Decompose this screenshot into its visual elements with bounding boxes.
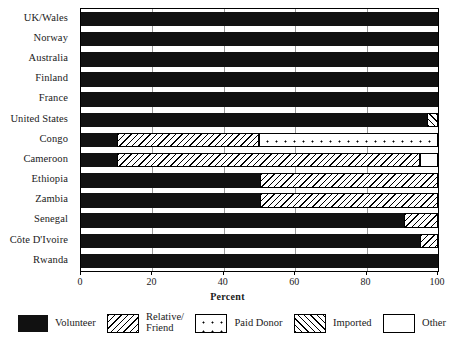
tick-label-20: 20	[146, 276, 156, 287]
stacked-bar-2	[81, 52, 438, 67]
legend-item-imported: Imported	[294, 314, 372, 333]
bar-segment-relative	[420, 234, 438, 249]
bar-segment-volunteer	[81, 133, 117, 148]
legend-swatch-relative-icon	[107, 314, 139, 333]
legend-swatch-other-icon	[383, 314, 415, 333]
bar-row	[81, 190, 438, 210]
legend-item-volunteer: Volunteer	[18, 315, 96, 332]
bar-segment-relative	[117, 153, 420, 168]
bar-row	[81, 231, 438, 251]
y-axis-label-6: Congo	[0, 129, 74, 149]
bar-segment-volunteer	[81, 32, 438, 47]
bar-segment-relative	[260, 193, 439, 208]
stacked-bar-8	[81, 173, 438, 188]
plot-area	[80, 8, 439, 272]
y-axis-category-labels: UK/WalesNorwayAustraliaFinlandFranceUnit…	[0, 8, 74, 270]
stacked-bar-12	[81, 254, 438, 269]
stacked-bar-3	[81, 72, 438, 87]
y-axis-label-0: UK/Wales	[0, 8, 74, 28]
x-axis-tick-labels: 020406080100	[0, 276, 455, 290]
tick-label-60: 60	[289, 276, 299, 287]
bar-row	[81, 110, 438, 130]
bar-row	[81, 251, 438, 271]
legend-item-paid: Paid Donor	[195, 314, 282, 333]
bar-row	[81, 29, 438, 49]
bar-segment-paid	[259, 133, 438, 148]
bar-row	[81, 170, 438, 190]
bar-segment-volunteer	[81, 72, 438, 87]
bar-row	[81, 69, 438, 89]
bar-segment-other	[420, 153, 438, 168]
stacked-bar-0	[81, 12, 438, 27]
y-axis-label-7: Cameroon	[0, 149, 74, 169]
legend-swatch-volunteer-icon	[18, 315, 48, 332]
y-axis-label-2: Australia	[0, 48, 74, 68]
bar-segment-volunteer	[81, 113, 427, 128]
legend-label-paid: Paid Donor	[234, 318, 282, 329]
y-axis-label-11: Côte D'Ivoire	[0, 230, 74, 250]
legend-item-other: Other	[383, 314, 446, 333]
stacked-bar-7	[81, 153, 438, 168]
tick-100	[437, 271, 438, 275]
bar-row	[81, 90, 438, 110]
tick-0	[80, 271, 81, 275]
legend-label-volunteer: Volunteer	[55, 318, 96, 329]
y-axis-label-8: Ethiopia	[0, 169, 74, 189]
tick-80	[366, 271, 367, 275]
legend-label-imported: Imported	[333, 318, 372, 329]
stacked-bar-6	[81, 133, 438, 148]
stacked-bar-9	[81, 193, 438, 208]
bar-segment-relative	[404, 213, 438, 228]
tick-label-40: 40	[218, 276, 228, 287]
stacked-bar-10	[81, 213, 438, 228]
bar-row	[81, 150, 438, 170]
stacked-bar-1	[81, 32, 438, 47]
bar-segment-volunteer	[81, 254, 438, 269]
legend-label-relative: Relative/ Friend	[146, 312, 184, 333]
stacked-bar-4	[81, 92, 438, 107]
y-axis-label-9: Zambia	[0, 189, 74, 209]
bar-segment-volunteer	[81, 153, 117, 168]
tick-20	[151, 271, 152, 275]
y-axis-label-3: Finland	[0, 68, 74, 88]
y-axis-label-4: France	[0, 89, 74, 109]
tick-label-100: 100	[430, 276, 445, 287]
tick-label-80: 80	[361, 276, 371, 287]
bar-segment-relative	[117, 133, 260, 148]
stacked-bars-container	[81, 9, 438, 271]
bar-segment-volunteer	[81, 52, 438, 67]
legend-swatch-paid-icon	[195, 314, 227, 333]
stacked-bar-11	[81, 234, 438, 249]
legend-swatch-imported-icon	[294, 314, 326, 333]
bar-segment-volunteer	[81, 173, 260, 188]
x-axis-title: Percent	[0, 291, 455, 302]
bar-segment-relative	[260, 173, 439, 188]
bar-segment-volunteer	[81, 213, 404, 228]
y-axis-label-1: Norway	[0, 28, 74, 48]
y-axis-label-12: Rwanda	[0, 250, 74, 270]
stacked-bar-5	[81, 113, 438, 128]
bar-segment-volunteer	[81, 12, 438, 27]
bar-segment-volunteer	[81, 92, 438, 107]
tick-40	[223, 271, 224, 275]
bar-segment-imported	[427, 113, 438, 128]
legend-item-relative: Relative/ Friend	[107, 312, 184, 333]
legend-label-other: Other	[422, 318, 446, 329]
blood-donor-source-chart: UK/WalesNorwayAustraliaFinlandFranceUnit…	[0, 0, 455, 342]
tick-label-0: 0	[78, 276, 83, 287]
bar-row	[81, 130, 438, 150]
bar-row	[81, 49, 438, 69]
y-axis-label-10: Senegal	[0, 210, 74, 230]
chart-legend: VolunteerRelative/ FriendPaid DonorImpor…	[18, 310, 446, 336]
y-axis-label-5: United States	[0, 109, 74, 129]
bar-row	[81, 9, 438, 29]
tick-60	[294, 271, 295, 275]
bar-segment-volunteer	[81, 234, 420, 249]
bar-row	[81, 211, 438, 231]
bar-segment-volunteer	[81, 193, 260, 208]
